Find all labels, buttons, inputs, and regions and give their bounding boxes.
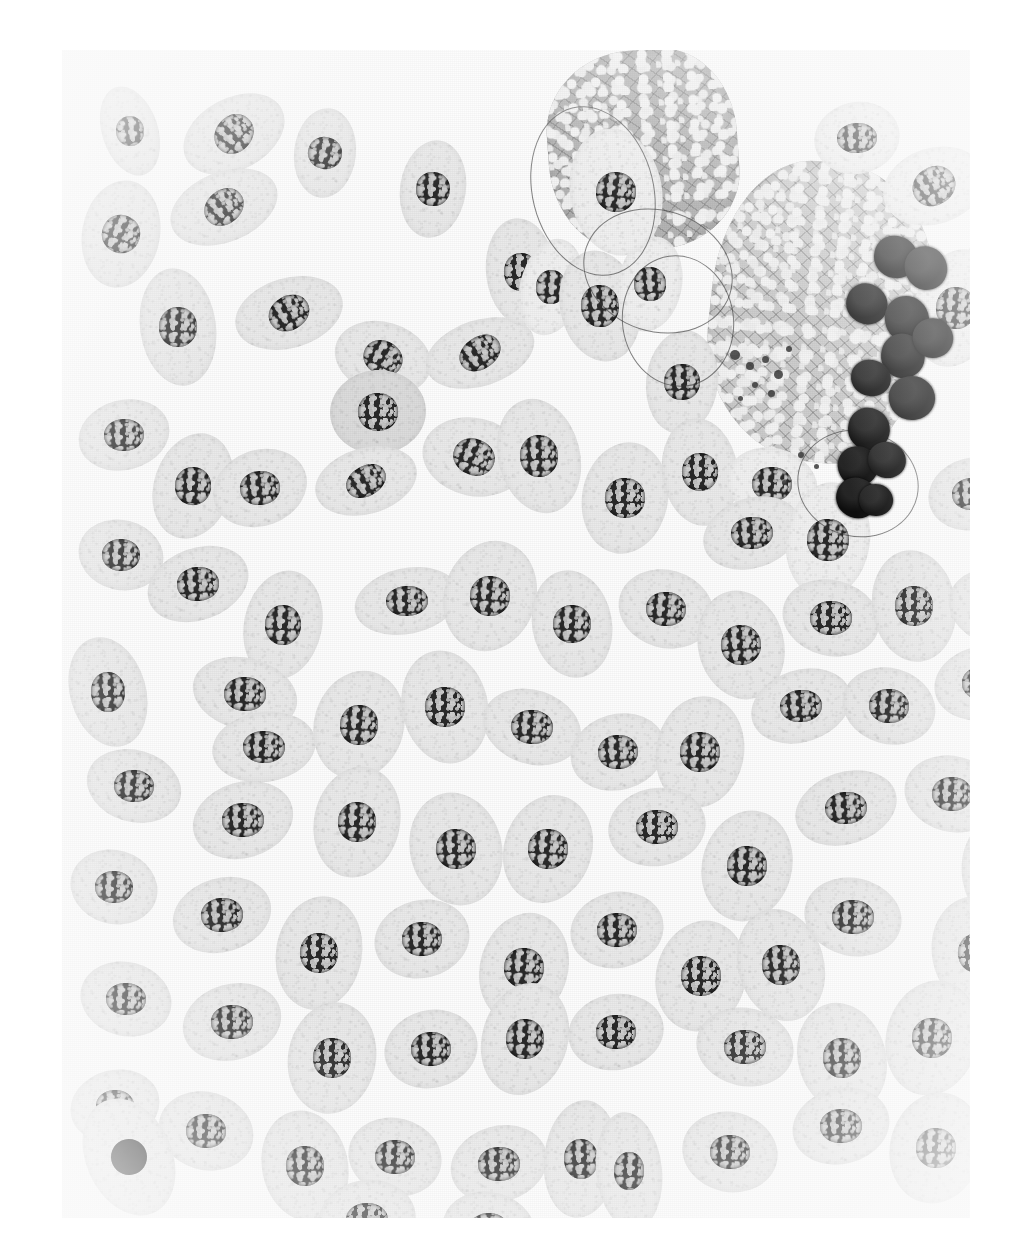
erythrocyte [267,889,371,1016]
nucleus [596,1015,636,1049]
nucleus [720,624,763,667]
nucleus [103,418,144,451]
nucleus [176,566,220,603]
nucleus [410,1031,451,1066]
erythrocyte [833,657,944,756]
nucleus [358,393,398,431]
erythrocyte [62,839,166,934]
nucleus [915,1127,956,1168]
nucleus [552,604,591,643]
nucleus [679,731,720,772]
erythrocyte [184,769,303,870]
nucleus [510,709,554,746]
nucleus [895,586,933,626]
erythrocyte [279,995,385,1121]
debris-speck [782,480,787,485]
nucleus [113,769,155,804]
nucleus [596,912,637,947]
erythrocyte [164,866,281,965]
nucleus [238,469,281,507]
erythrocyte [62,628,160,757]
nucleus [94,870,133,903]
nucleus [200,897,244,934]
nucleus [477,1146,520,1181]
erythrocyte [878,1083,970,1214]
pyknotic-nucleus [105,1133,153,1181]
nucleus [435,828,476,869]
nucleus [469,575,512,618]
erythrocyte [132,263,224,390]
erythrocyte [391,642,499,771]
nucleus [262,288,315,338]
debris-speck [730,350,740,360]
nucleus [905,158,962,214]
nucleus [374,1139,415,1174]
nucleus [961,665,970,700]
erythrocyte [485,390,593,522]
nucleus [385,585,428,616]
nucleus [911,1017,954,1060]
nucleus [868,688,910,725]
erythrocyte [159,154,289,261]
nucleus [105,982,146,1015]
nucleus [836,122,877,153]
debris-speck [774,370,783,379]
erythrocyte [562,986,670,1078]
nucleus [90,671,125,712]
nucleus [174,466,211,505]
nucleus [158,306,197,347]
debris-speck [814,464,819,469]
erythrocyte [398,783,515,916]
nucleus [346,1203,388,1218]
erythrocyte [226,264,351,362]
nucleus [951,477,970,510]
erythrocyte [78,738,190,834]
nucleus [207,106,262,161]
nucleus [613,1151,644,1190]
erythrocyte [72,952,179,1046]
nucleus [210,1004,253,1039]
nucleus [468,1212,509,1218]
nucleus [822,1037,861,1078]
erythrocyte [394,136,473,242]
nucleus [831,899,874,934]
nucleus [337,801,376,842]
nucleus [96,209,146,259]
erythrocyte [289,105,360,201]
nucleus [527,828,570,871]
debris-speck [786,346,792,352]
erythrocyte [489,783,607,915]
debris-speck [768,390,775,397]
nucleus [761,944,802,987]
nucleus [185,1113,226,1148]
debris-speck [762,356,769,363]
debris-speck [746,362,754,370]
erythrocyte [89,79,171,184]
photomicrograph-figure [0,0,1010,1259]
erythrocyte [307,435,425,527]
erythrocyte [376,1000,486,1098]
nucleus [264,604,301,645]
nucleus [819,1108,862,1143]
nucleus [285,1145,324,1186]
nucleus [519,434,558,477]
debris-speck [798,452,804,458]
erythrocyte [785,758,906,859]
erythrocyte [173,972,290,1073]
nucleus [453,327,507,378]
nucleus [709,1134,750,1169]
nucleus [221,802,264,837]
erythrocyte [896,746,970,843]
erythrocyte [563,883,671,977]
nucleus [505,1018,544,1059]
debris-speck [738,396,743,401]
nucleus [931,776,970,811]
nucleus [730,516,774,551]
nucleus [305,133,346,172]
nucleus [448,432,500,481]
debris-speck [752,382,758,388]
nucleus [824,791,868,826]
nucleus [645,591,687,628]
erythrocyte [303,758,410,885]
nucleus [605,478,645,518]
